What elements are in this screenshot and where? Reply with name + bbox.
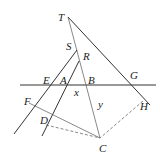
label-C: C [99,142,107,154]
label-E: E [42,74,50,86]
line-DC [46,125,100,138]
label-F: F [23,95,31,107]
geometry-diagram: T S R E A B G F D H C x y [0,0,160,164]
line-TSBC [68,17,100,138]
label-S: S [66,40,72,52]
label-R: R [82,50,90,62]
label-y: y [97,98,103,110]
line-HC [100,101,143,138]
label-D: D [39,114,48,126]
label-x: x [73,86,79,98]
line-TGH [68,17,150,105]
label-H: H [139,100,149,112]
label-T: T [58,11,65,23]
label-B: B [88,74,95,86]
label-G: G [130,69,138,81]
label-A: A [59,74,67,86]
